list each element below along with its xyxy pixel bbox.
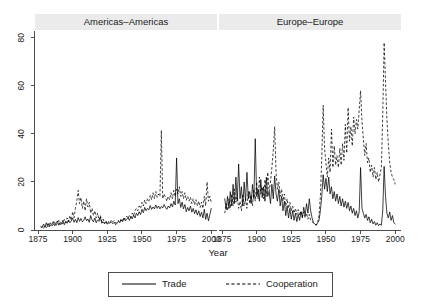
legend: TradeCooperation (108, 272, 332, 296)
legend-label-cooperation: Cooperation (266, 278, 318, 289)
chart-canvas: Americas–Americas18751900192519501975200… (0, 0, 427, 308)
series-line-trade (225, 139, 395, 226)
x-tick-label: 2000 (386, 234, 405, 244)
x-tick-label: 1875 (213, 234, 232, 244)
x-tick-label: 1975 (351, 234, 370, 244)
faceted-line-chart: Americas–Americas18751900192519501975200… (0, 0, 427, 308)
y-tick-label: 80 (16, 33, 26, 43)
series-line-trade (41, 158, 211, 228)
series-line-cooperation (41, 130, 211, 228)
x-axis-title: Year (208, 247, 227, 258)
y-tick-label: 20 (16, 177, 26, 187)
panel-americas: Americas–Americas18751900192519501975200… (16, 14, 221, 244)
panel-strip-label: Americas–Americas (84, 16, 169, 27)
y-tick-label: 40 (16, 129, 26, 139)
y-tick-label: 0 (16, 227, 26, 232)
x-tick-label: 1925 (98, 234, 117, 244)
panel-strip-label: Europe–Europe (277, 16, 344, 27)
y-tick-label: 60 (16, 81, 26, 91)
x-tick-label: 1900 (63, 234, 82, 244)
x-tick-label: 1975 (167, 234, 186, 244)
chart-root: Americas–Americas18751900192519501975200… (0, 0, 427, 308)
x-tick-label: 1900 (247, 234, 266, 244)
x-tick-label: 1925 (282, 234, 301, 244)
x-tick-label: 1950 (316, 234, 335, 244)
x-tick-label: 1875 (29, 234, 48, 244)
panel-europe: Europe–Europe187519001925195019752000 (213, 14, 405, 244)
x-tick-label: 1950 (132, 234, 151, 244)
series-line-cooperation (225, 43, 395, 226)
legend-label-trade: Trade (162, 278, 186, 289)
